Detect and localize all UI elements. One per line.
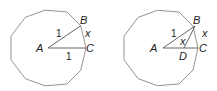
label-c-2: C bbox=[199, 42, 207, 54]
figure-2: A B C D 1 x x bbox=[124, 10, 208, 85]
label-b-2: B bbox=[193, 14, 200, 26]
label-b-1: B bbox=[80, 14, 87, 26]
label-bc-1: x bbox=[84, 27, 91, 39]
label-ab-1: 1 bbox=[56, 28, 62, 39]
label-c-1: C bbox=[86, 42, 94, 54]
label-ab-2: 1 bbox=[171, 28, 177, 39]
label-a-2: A bbox=[149, 42, 157, 54]
label-d-2: D bbox=[179, 50, 187, 62]
label-a-1: A bbox=[35, 42, 43, 54]
segment-ab-1 bbox=[48, 26, 81, 48]
label-bc-2: x bbox=[201, 27, 208, 39]
label-ac-1: 1 bbox=[66, 51, 72, 62]
segment-ab-2 bbox=[163, 26, 195, 48]
diagram-canvas: A B C 1 1 x A B C D 1 x x bbox=[0, 0, 217, 91]
figure-1: A B C 1 1 x bbox=[11, 10, 94, 86]
label-bd-2: x bbox=[179, 35, 186, 47]
